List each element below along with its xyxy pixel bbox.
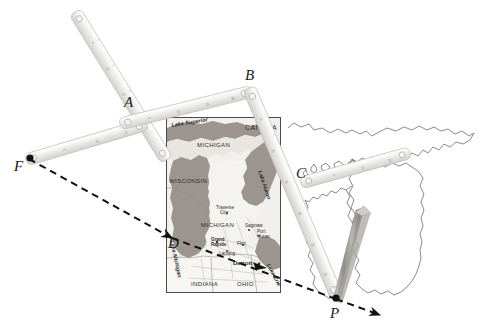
- point-label-A: A: [124, 95, 133, 110]
- pen-wedge[interactable]: [333, 206, 371, 303]
- point-label-C: C: [296, 166, 306, 181]
- point-dot-F: [26, 154, 33, 161]
- point-label-B: B: [245, 68, 254, 83]
- point-dot-P: [332, 294, 339, 301]
- pantograph-layer: 5 10 15 20 5: [0, 0, 479, 335]
- figure-canvas: Lake Superior CANADA MICHIGAN WISCONSIN …: [0, 0, 479, 335]
- ruler-c-to-right[interactable]: 5 10 15: [299, 147, 411, 189]
- point-label-P: P: [330, 306, 339, 321]
- point-label-D: D: [168, 236, 179, 251]
- point-label-F: F: [14, 159, 23, 174]
